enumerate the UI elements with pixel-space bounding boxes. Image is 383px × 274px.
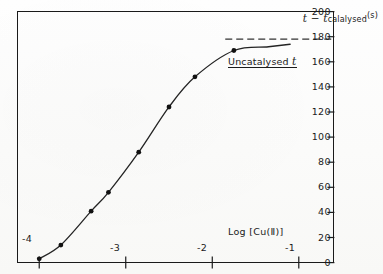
y-tick-label-120: 120 [312, 106, 331, 117]
x-axis-title: Log [Cu(Ⅱ)] [228, 226, 283, 237]
y-tick-label-140: 140 [312, 81, 331, 92]
x-tick-label-minus1: -1 [285, 242, 295, 253]
uncatalysed-word: Uncatalysed [228, 56, 289, 67]
data-point [58, 243, 63, 248]
x-tick-label-minus2: -2 [197, 242, 207, 253]
uncatalysed-italic-t: t [292, 55, 296, 67]
y-tick-label-60: 60 [318, 181, 331, 192]
y-axis-title-unit: (s) [367, 11, 378, 20]
x-axis-ticks [39, 257, 299, 269]
uncatalysed-annotation: Uncatalysed t [228, 55, 297, 68]
y-tick-label-20: 20 [318, 232, 331, 243]
data-point [106, 190, 111, 195]
y-tick-label-40: 40 [318, 206, 331, 217]
y-tick-label-0: 0 [325, 257, 331, 268]
y-tick-label-100: 100 [312, 131, 331, 142]
y-tick-label-80: 80 [318, 156, 331, 167]
data-point [193, 74, 198, 79]
figure-page: t − tcalalysed(s) 200 180 160 140 120 10… [0, 0, 383, 274]
x-tick-label-minus4: -4 [22, 233, 32, 244]
data-point [136, 150, 141, 155]
y-tick-label-180: 180 [312, 31, 331, 42]
data-point [232, 48, 237, 53]
data-point [89, 209, 94, 214]
y-axis-title-subscript: calalysed [328, 15, 367, 24]
y-tick-label-160: 160 [312, 56, 331, 67]
data-point [167, 105, 172, 110]
x-tick-label-minus3: -3 [110, 242, 120, 253]
y-tick-label-200: 200 [312, 6, 331, 17]
